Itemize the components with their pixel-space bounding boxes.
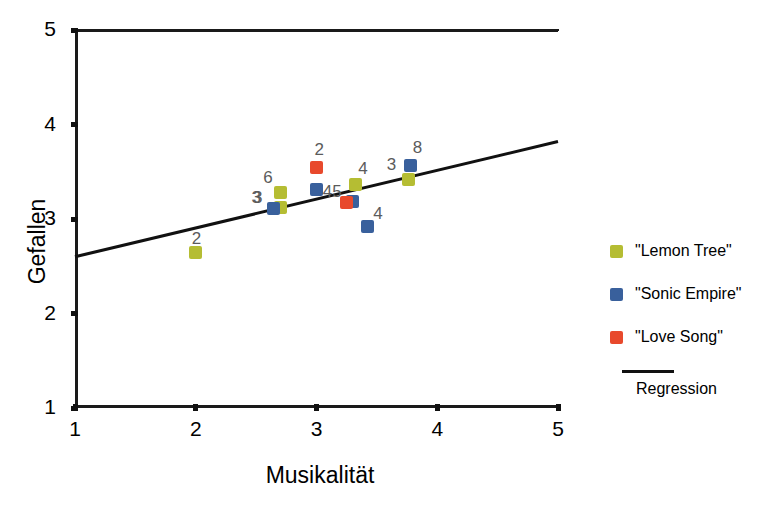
data-point-label: 4 [373,205,382,222]
data-point [267,202,280,215]
legend-label: "Lemon Tree" [635,242,732,260]
x-tick-mark [193,404,198,411]
y-axis-title: Gefallen [24,142,51,342]
y-tick-label: 5 [26,18,56,39]
legend-color-swatch [610,245,623,258]
legend-item[interactable]: "Lemon Tree" [610,243,732,259]
data-point [274,186,287,199]
data-point [310,161,323,174]
x-tick-label: 1 [60,418,90,439]
x-tick-label: 2 [181,418,211,439]
legend-item[interactable]: "Sonic Empire" [610,286,742,302]
data-point [349,178,362,191]
x-tick-label: 3 [302,418,332,439]
data-point-label: 8 [413,139,422,156]
y-tick-mark [71,217,78,222]
x-tick-label: 4 [422,418,452,439]
scatter-chart: 12345 12345 26434824533 Musikalität Gefa… [0,0,770,505]
data-point [404,159,417,172]
data-point [402,173,415,186]
x-tick-mark [435,404,440,411]
data-point-label: 45 [323,183,342,200]
y-tick-mark [71,122,78,127]
data-point [361,220,374,233]
x-tick-mark [314,404,319,411]
data-point-label: 4 [358,160,367,177]
data-point-label: 2 [315,141,324,158]
y-tick-mark [71,28,78,33]
legend-label: "Love Song" [635,328,723,346]
data-point-label: 6 [263,169,272,186]
x-tick-mark [73,404,78,411]
plot-frame [75,30,558,408]
data-point-label: 2 [192,230,201,247]
data-point [310,183,323,196]
plot-frame-top-border [75,29,559,31]
x-tick-mark [556,404,561,411]
data-point-label: 3 [251,189,260,206]
legend-label: "Sonic Empire" [635,285,742,303]
regression-line-swatch [622,370,674,373]
x-axis-title: Musikalität [175,462,465,489]
legend-item[interactable]: "Love Song" [610,329,723,345]
data-point-label: 3 [387,156,396,173]
y-tick-label: 1 [26,396,56,417]
legend-item-regression: Regression [610,370,760,398]
legend-color-swatch [610,331,623,344]
x-tick-label: 5 [543,418,573,439]
legend-label-regression: Regression [636,380,760,398]
y-tick-label: 4 [26,113,56,134]
y-tick-mark [71,311,78,316]
data-point [340,196,353,209]
legend-color-swatch [610,288,623,301]
